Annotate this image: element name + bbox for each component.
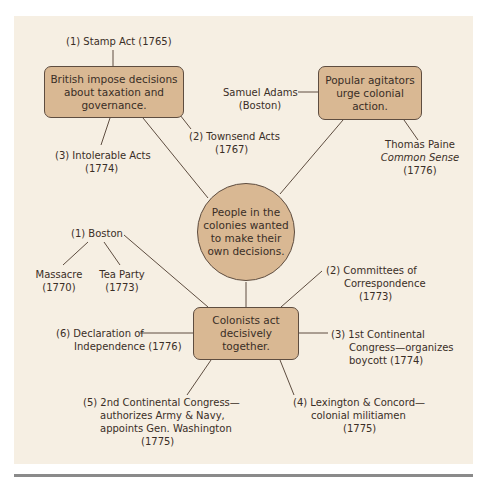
- circle-line-2: colonies wanted: [203, 219, 288, 232]
- label-text: Intolerable Acts: [72, 150, 150, 161]
- label-number: (4): [293, 397, 307, 408]
- label-text-2: authorizes Army & Navy,: [83, 409, 240, 422]
- label-number: (5): [83, 397, 97, 408]
- british-decisions-box: British impose decisions about taxation …: [44, 66, 184, 118]
- label-subtext: (Boston): [223, 99, 297, 112]
- label-text: Massacre: [34, 268, 84, 281]
- label-text-2: colonial militiamen: [293, 409, 425, 422]
- label-number: (1): [66, 36, 80, 47]
- popular-agitators-box: Popular agitators urge colonial action.: [318, 66, 422, 120]
- colonists-box-line-2: decisively: [212, 327, 279, 340]
- label-number: (3): [55, 150, 69, 161]
- label-text: Samuel Adams: [223, 86, 297, 99]
- label-year: (1770): [34, 281, 84, 294]
- label-thomas-paine: Thomas Paine Common Sense (1776): [380, 138, 460, 177]
- label-boston: (1) Boston: [71, 227, 123, 240]
- central-idea-circle: People in the colonies wanted to make th…: [197, 183, 295, 281]
- label-intolerable-acts: (3) Intolerable Acts (1774): [55, 149, 151, 175]
- label-number: (6): [56, 328, 70, 339]
- label-text-3: boycott (1774): [331, 354, 454, 367]
- label-year: (1767): [189, 143, 280, 156]
- label-year: (1775): [83, 435, 240, 448]
- label-first-continental-congress: (3) 1st Continental Congress—organizes b…: [331, 328, 454, 367]
- label-year: (1773): [326, 290, 426, 303]
- label-number: (1): [71, 228, 85, 239]
- british-box-line-2: about taxation and: [50, 86, 177, 99]
- british-box-line-3: governance.: [50, 99, 177, 112]
- label-text-3: appoints Gen. Washington: [83, 422, 240, 435]
- label-lexington-concord: (4) Lexington & Concord— colonial militi…: [293, 396, 425, 435]
- label-declaration-of-independence: (6) Declaration of Independence (1776): [56, 327, 182, 353]
- bottom-divider: [14, 474, 473, 477]
- label-second-continental-congress: (5) 2nd Continental Congress— authorizes…: [83, 396, 240, 448]
- label-text-2: Congress—organizes: [331, 341, 454, 354]
- label-year: (1773): [97, 281, 147, 294]
- label-number: (2): [189, 131, 203, 142]
- circle-line-3: to make their: [203, 232, 288, 245]
- colonists-box-line-1: Colonists act: [212, 314, 279, 327]
- circle-line-4: own decisions.: [203, 245, 288, 258]
- label-number: (3): [331, 329, 345, 340]
- label-text-2: Independence (1776): [56, 340, 182, 353]
- label-year: (1774): [55, 162, 151, 175]
- label-text: 2nd Continental Congress—: [100, 397, 239, 408]
- label-title: Common Sense: [380, 151, 460, 164]
- label-year: (1775): [293, 422, 425, 435]
- label-text: 1st Continental: [348, 329, 424, 340]
- label-number: (2): [326, 265, 340, 276]
- label-stamp-act: (1) Stamp Act (1765): [66, 35, 172, 48]
- circle-line-1: People in the: [203, 206, 288, 219]
- label-text-2: Correspondence: [326, 277, 426, 290]
- label-tea-party: Tea Party (1773): [97, 268, 147, 294]
- label-text: Committees of: [343, 265, 417, 276]
- colonists-box-line-3: together.: [212, 340, 279, 353]
- colonists-act-box: Colonists act decisively together.: [193, 307, 299, 360]
- label-massacre: Massacre (1770): [34, 268, 84, 294]
- label-text: Townsend Acts: [206, 131, 280, 142]
- agitators-box-line-2: urge colonial: [325, 87, 415, 100]
- label-text: Declaration of: [73, 328, 143, 339]
- label-text: Lexington & Concord—: [310, 397, 425, 408]
- label-text: Thomas Paine: [380, 138, 460, 151]
- british-box-line-1: British impose decisions: [50, 73, 177, 86]
- label-text: Boston: [88, 228, 123, 239]
- label-committees: (2) Committees of Correspondence (1773): [326, 264, 426, 303]
- label-text: Tea Party: [97, 268, 147, 281]
- agitators-box-line-3: action.: [325, 100, 415, 113]
- label-samuel-adams: Samuel Adams (Boston): [223, 86, 297, 112]
- agitators-box-line-1: Popular agitators: [325, 74, 415, 87]
- label-townsend-acts: (2) Townsend Acts (1767): [189, 130, 280, 156]
- label-text: Stamp Act (1765): [83, 36, 171, 47]
- label-year: (1776): [380, 164, 460, 177]
